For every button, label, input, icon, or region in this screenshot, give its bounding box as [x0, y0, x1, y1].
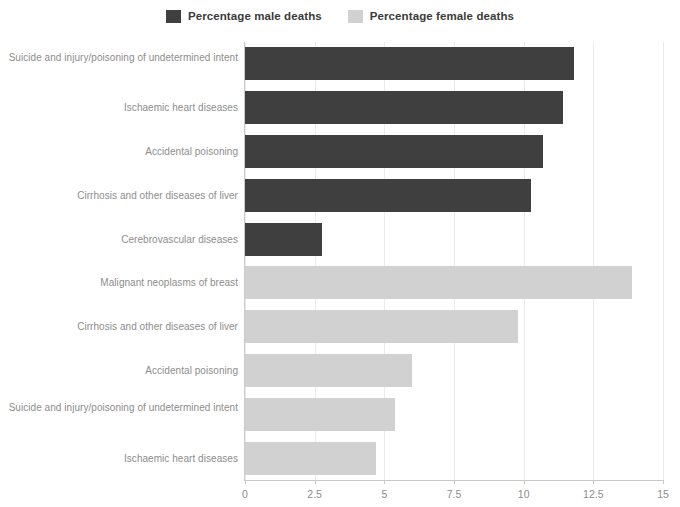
x-tick-mark — [315, 480, 316, 484]
bar[interactable] — [245, 442, 376, 475]
x-tick-label: 0 — [215, 488, 275, 500]
x-tick-label: 10 — [494, 488, 554, 500]
gridline-15 — [663, 42, 664, 480]
y-axis-label: Cirrhosis and other diseases of liver — [2, 320, 238, 333]
x-tick-label: 15 — [633, 488, 680, 500]
y-axis-label: Cerebrovascular diseases — [2, 233, 238, 246]
x-tick-label: 2.5 — [285, 488, 345, 500]
gridline-12-5 — [593, 42, 594, 480]
plot-area — [245, 42, 663, 480]
bar[interactable] — [245, 91, 563, 124]
bar[interactable] — [245, 354, 412, 387]
x-tick-mark — [384, 480, 385, 484]
chart-legend: Percentage male deaths Percentage female… — [0, 5, 680, 27]
bar[interactable] — [245, 398, 395, 431]
bar[interactable] — [245, 179, 531, 212]
y-axis-label: Suicide and injury/poisoning of undeterm… — [2, 401, 238, 414]
x-tick-mark — [245, 480, 246, 484]
y-axis-label: Suicide and injury/poisoning of undeterm… — [2, 51, 238, 64]
legend-label-female: Percentage female deaths — [370, 10, 514, 22]
x-tick-mark — [593, 480, 594, 484]
x-tick-label: 5 — [354, 488, 414, 500]
bar[interactable] — [245, 135, 543, 168]
legend-swatch-female — [348, 10, 363, 23]
legend-entry-male: Percentage male deaths — [166, 10, 322, 23]
x-tick-mark — [663, 480, 664, 484]
y-axis-label: Accidental poisoning — [2, 145, 238, 158]
bar-chart: Suicide and injury/poisoning of undeterm… — [0, 33, 680, 507]
bar[interactable] — [245, 47, 574, 80]
x-tick-label: 7.5 — [424, 488, 484, 500]
bar[interactable] — [245, 310, 518, 343]
legend-swatch-male — [166, 10, 181, 23]
bar[interactable] — [245, 223, 322, 256]
bar[interactable] — [245, 266, 632, 299]
legend-entry-female: Percentage female deaths — [348, 10, 514, 23]
y-axis-label: Ischaemic heart diseases — [2, 452, 238, 465]
x-tick-mark — [454, 480, 455, 484]
y-axis-label: Cirrhosis and other diseases of liver — [2, 189, 238, 202]
legend-label-male: Percentage male deaths — [188, 10, 322, 22]
x-tick-label: 12.5 — [563, 488, 623, 500]
y-axis-label: Accidental poisoning — [2, 364, 238, 377]
x-tick-mark — [524, 480, 525, 484]
y-axis-label: Ischaemic heart diseases — [2, 101, 238, 114]
y-axis-label: Malignant neoplasms of breast — [2, 276, 238, 289]
